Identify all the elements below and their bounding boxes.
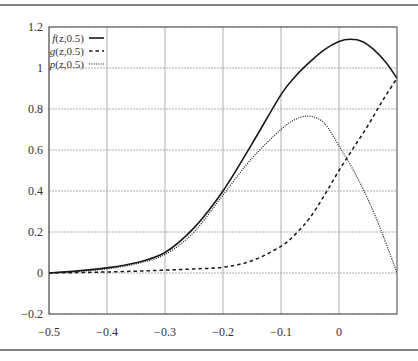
y-tick-label: 0 [37, 266, 43, 280]
x-tick-label: −0.1 [270, 325, 292, 339]
x-tick-label: −0.5 [38, 325, 60, 339]
legend-label: p(z,0.5) [49, 58, 85, 71]
y-axis-tick-labels: −0.200.20.40.60.811.2 [21, 20, 43, 321]
y-tick-label: 1 [37, 61, 43, 75]
legend: f(z,0.5)g(z,0.5)p(z,0.5) [49, 32, 104, 71]
legend-label: g(z,0.5) [50, 45, 85, 58]
y-tick-label: 0.4 [28, 184, 43, 198]
x-axis-tick-labels: −0.5−0.4−0.3−0.2−0.10 [38, 325, 342, 339]
y-tick-label: 0.2 [28, 225, 43, 239]
line-chart: −0.5−0.4−0.3−0.2−0.10 −0.200.20.40.60.81… [0, 0, 418, 361]
y-tick-label: 0.8 [28, 102, 43, 116]
x-tick-label: −0.2 [212, 325, 234, 339]
x-tick-label: 0 [336, 325, 342, 339]
x-tick-label: −0.4 [96, 325, 118, 339]
y-tick-label: −0.2 [21, 307, 43, 321]
y-tick-label: 0.6 [28, 143, 43, 157]
x-tick-label: −0.3 [154, 325, 176, 339]
y-tick-label: 1.2 [28, 20, 43, 34]
legend-label: f(z,0.5) [52, 32, 84, 45]
grid-lines [49, 27, 397, 314]
